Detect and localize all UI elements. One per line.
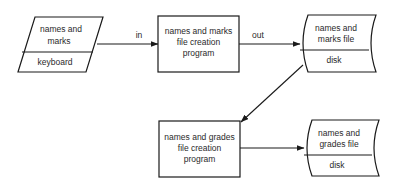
marks-program-label-line1: names and marks: [165, 26, 233, 36]
node-grades-file: names and grades file disk: [304, 120, 379, 176]
grades-program-label-line3: program: [184, 154, 216, 164]
marks-program-label-line3: program: [183, 48, 215, 58]
node-marks-file: names and marks file disk: [300, 15, 376, 72]
node-marks-program: names and marks file creation program: [158, 16, 239, 72]
grades-file-label-line2: grades file: [319, 139, 358, 149]
marks-file-label-line1: names and: [315, 23, 357, 33]
edge-marks-file-to-grades-program: [241, 65, 303, 122]
edge-diagonal-line: [241, 65, 303, 122]
edge-in-label: in: [136, 30, 143, 40]
keyboard-input-label-line1: names and: [40, 24, 82, 34]
marks-file-label-line2: marks file: [318, 34, 355, 44]
node-keyboard-input: names and marks keyboard: [18, 17, 103, 72]
edge-out-label: out: [252, 30, 264, 40]
marks-program-label-line2: file creation: [177, 37, 221, 47]
edge-keyboard-to-marks-program: in: [97, 30, 158, 44]
grades-program-label-line2: file creation: [178, 143, 222, 153]
edge-marks-program-to-marks-file: out: [239, 30, 300, 44]
keyboard-input-sublabel: keyboard: [38, 57, 73, 67]
flowchart-canvas: names and marks keyboard in names and ma…: [0, 0, 395, 187]
keyboard-input-label-line2: marks: [47, 36, 70, 46]
node-grades-program: names and grades file creation program: [159, 121, 240, 177]
grades-file-label-line1: names and: [318, 128, 360, 138]
grades-file-sublabel: disk: [329, 160, 345, 170]
marks-file-sublabel: disk: [326, 55, 342, 65]
grades-program-label-line1: names and grades: [164, 132, 234, 142]
